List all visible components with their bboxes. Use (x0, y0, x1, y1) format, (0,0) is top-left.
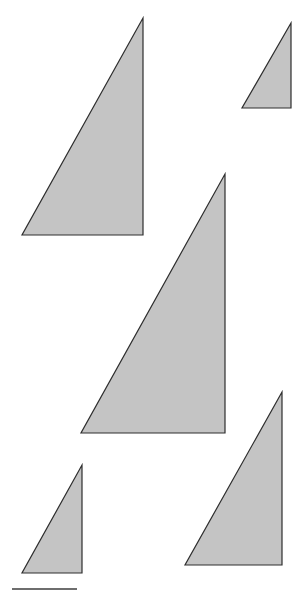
triangle-5 (22, 465, 82, 573)
triangle-1 (22, 18, 143, 235)
figure-canvas (0, 0, 301, 593)
triangle-2 (242, 23, 291, 108)
